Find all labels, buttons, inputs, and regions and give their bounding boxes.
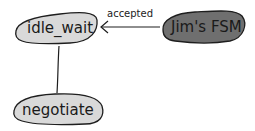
node-label-idle-wait: idle_wait bbox=[27, 19, 93, 37]
node-label-jims-fsm: Jim's FSM bbox=[171, 18, 242, 36]
node-label-negotiate: negotiate bbox=[22, 101, 94, 119]
edge-label-accepted: accepted bbox=[107, 8, 153, 19]
edge-idle-negotiate bbox=[57, 46, 59, 93]
